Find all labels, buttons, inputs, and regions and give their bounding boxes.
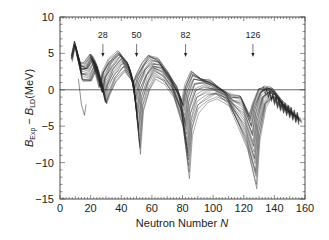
arrowhead-icon <box>101 53 104 57</box>
y-tick-label: 0 <box>48 84 54 96</box>
magic-number-label: 28 <box>98 30 108 40</box>
y-tick-label: −10 <box>35 157 54 169</box>
x-tick-label: 160 <box>296 202 314 214</box>
x-axis-title: Neutron Number N <box>136 217 228 229</box>
plot-frame <box>60 17 305 199</box>
y-tick-label: −15 <box>35 193 54 205</box>
arrowhead-icon <box>184 53 187 57</box>
data-series-line <box>76 52 301 171</box>
y-tick-label: 10 <box>42 11 54 23</box>
arrowhead-icon <box>135 53 138 57</box>
x-tick-label: 140 <box>265 202 283 214</box>
x-tick-label: 100 <box>204 202 222 214</box>
chart-canvas: 020406080100120140160 1050−5−10−15 28508… <box>0 0 329 240</box>
magic-number-label: 82 <box>181 30 191 40</box>
x-tick-label: 80 <box>176 202 188 214</box>
x-tick-label: 20 <box>85 202 97 214</box>
outlier-series-line <box>78 79 86 115</box>
magic-number-label: 126 <box>245 30 260 40</box>
data-series-line <box>271 97 299 123</box>
y-tick-label: −5 <box>41 120 54 132</box>
curve-family <box>71 41 302 189</box>
x-tick-label: 120 <box>235 202 253 214</box>
x-tick-label: 60 <box>146 202 158 214</box>
x-tick-label: 0 <box>57 202 63 214</box>
arrowhead-icon <box>251 53 254 57</box>
magic-number-label: 50 <box>132 30 142 40</box>
y-tick-label: 5 <box>48 47 54 59</box>
magic-number-annotations: 285082126 <box>98 30 261 57</box>
x-tick-label: 40 <box>115 202 127 214</box>
y-axis-title: BExp − BLD(MeV) <box>23 69 37 147</box>
